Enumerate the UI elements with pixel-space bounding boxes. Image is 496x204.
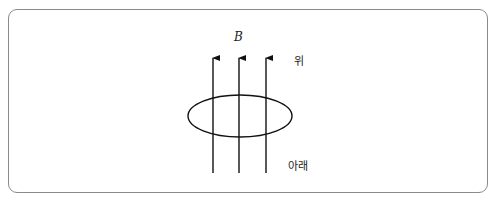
bottom-label: 아래 (288, 157, 308, 173)
top-label: 위 (294, 52, 304, 68)
magnetic-field-label: B (234, 30, 243, 44)
current-loop (188, 95, 292, 137)
field-lines (213, 58, 266, 173)
magnetic-flux-diagram (0, 0, 496, 204)
